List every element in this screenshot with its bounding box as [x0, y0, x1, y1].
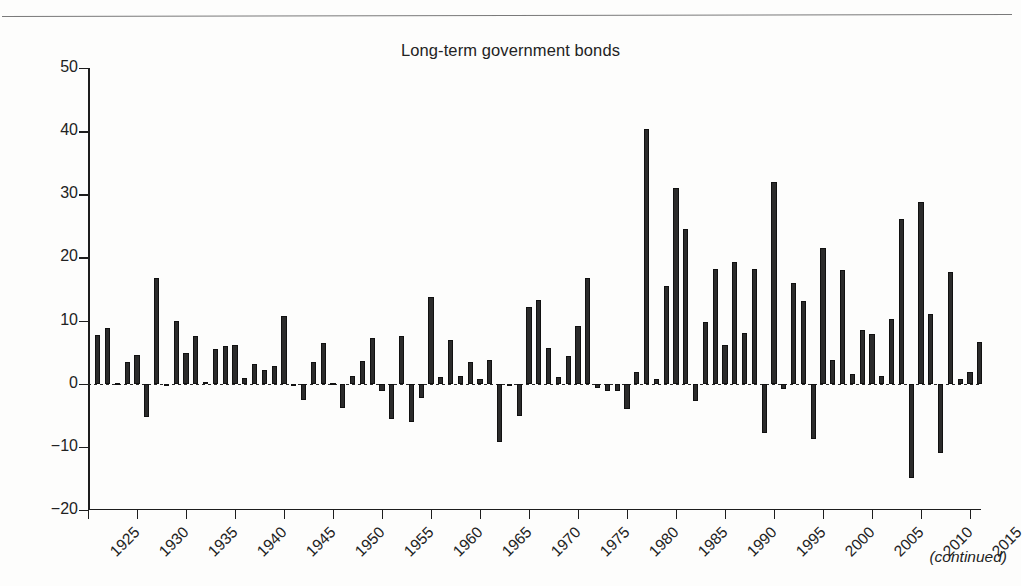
x-axis-tick-label: 2005: [891, 524, 926, 559]
y-axis-tick: [79, 131, 88, 132]
zero-baseline: [88, 384, 981, 385]
bar: [144, 384, 149, 417]
bar: [781, 384, 786, 390]
y-axis-tick-label: 50: [60, 59, 78, 75]
bar: [281, 316, 286, 384]
bar: [869, 334, 874, 383]
bar: [693, 384, 698, 401]
bar: [301, 384, 306, 400]
bar: [517, 384, 522, 416]
bar: [654, 379, 659, 383]
bar: [683, 229, 688, 384]
x-axis-tick-label: 1985: [695, 524, 730, 559]
bar: [850, 374, 855, 383]
bar: [889, 319, 894, 384]
bar: [585, 278, 590, 384]
bar: [566, 356, 571, 384]
bar: [379, 384, 384, 392]
x-axis-tick-label: 1965: [499, 524, 534, 559]
bar: [458, 376, 463, 384]
x-axis-tick-label: 1935: [205, 524, 240, 559]
y-axis-tick-label: −10: [51, 438, 78, 454]
bar: [664, 286, 669, 384]
y-axis-tick-label: 0: [69, 375, 78, 391]
bar: [399, 336, 404, 383]
bar: [223, 346, 228, 383]
y-axis-tick-label: 30: [60, 185, 78, 201]
x-axis-tick-label: 1940: [254, 524, 289, 559]
bar: [830, 360, 835, 383]
bar: [526, 307, 531, 383]
y-axis-tick: [79, 257, 88, 258]
bar: [321, 343, 326, 384]
y-axis-tick: [79, 510, 88, 511]
bar: [879, 376, 884, 384]
bar: [477, 379, 482, 383]
plot-area: [88, 68, 981, 510]
bar: [977, 342, 982, 384]
y-axis-tick: [79, 447, 88, 448]
bar: [595, 384, 600, 388]
bar: [722, 345, 727, 384]
bar: [928, 314, 933, 383]
y-axis-tick-label: 40: [60, 122, 78, 138]
bar: [193, 336, 198, 383]
bar: [115, 383, 120, 385]
bar: [330, 383, 335, 385]
bar: [252, 364, 257, 384]
y-axis-tick: [79, 68, 88, 69]
bar: [311, 362, 316, 383]
bar: [556, 377, 561, 384]
x-axis-tick-label: 1995: [793, 524, 828, 559]
bar: [213, 349, 218, 384]
bar: [732, 262, 737, 384]
bar: [242, 378, 247, 384]
bar: [742, 333, 747, 384]
x-axis-tick-label: 2000: [842, 524, 877, 559]
bar: [360, 361, 365, 384]
y-axis-tick: [79, 194, 88, 195]
bar: [272, 366, 277, 384]
bar: [967, 372, 972, 384]
bar: [350, 376, 355, 384]
bar: [419, 384, 424, 399]
x-axis-tick-label: 1945: [303, 524, 338, 559]
bar: [291, 384, 296, 386]
x-axis-tick-label: 1970: [548, 524, 583, 559]
bar: [125, 362, 130, 383]
bar: [673, 188, 678, 384]
bar: [860, 330, 865, 384]
bar: [428, 297, 433, 384]
bar: [820, 248, 825, 384]
continued-note: (continued): [929, 548, 1007, 566]
bar: [801, 301, 806, 384]
bar: [899, 219, 904, 384]
bar: [644, 129, 649, 384]
y-axis-tick: [79, 384, 88, 385]
bar: [811, 384, 816, 439]
bar: [575, 326, 580, 384]
bar: [409, 384, 414, 423]
bar: [203, 382, 208, 384]
bar: [448, 340, 453, 384]
bar: [438, 377, 443, 383]
bar: [389, 384, 394, 419]
y-axis-labels: 50403020100−10−20: [10, 68, 78, 510]
bar: [703, 322, 708, 383]
x-axis-tick-label: 1950: [352, 524, 387, 559]
x-axis-tick-label: 1990: [744, 524, 779, 559]
bar: [468, 362, 473, 384]
bar: [909, 384, 914, 478]
bar: [174, 321, 179, 384]
bar: [154, 278, 159, 384]
bar: [164, 384, 169, 386]
bar: [183, 353, 188, 384]
x-axis-tick-label: 1975: [597, 524, 632, 559]
bar: [95, 335, 100, 384]
bar: [938, 384, 943, 453]
bar: [791, 283, 796, 383]
bar: [134, 355, 139, 383]
bar: [487, 360, 492, 383]
bar: [752, 269, 757, 384]
